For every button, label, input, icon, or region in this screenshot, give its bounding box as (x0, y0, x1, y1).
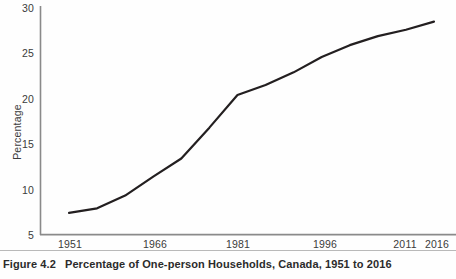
x-tick-label-1951: 1951 (48, 238, 92, 250)
caption-divider (0, 250, 456, 251)
y-tick-label-25: 25 (12, 47, 34, 59)
x-tick-label-1981: 1981 (216, 238, 260, 250)
line-chart-svg (0, 0, 456, 252)
y-tick-label-5: 5 (12, 229, 34, 241)
x-tick-label-2016: 2016 (415, 238, 456, 250)
y-tick-label-30: 30 (12, 2, 34, 14)
figure-container: 30 25 20 15 10 5 1951 1966 1981 1996 201… (0, 0, 456, 279)
x-tick-label-1966: 1966 (133, 238, 177, 250)
data-series-line (69, 22, 434, 213)
figure-caption-title: Percentage of One-person Households, Can… (65, 258, 392, 270)
figure-caption: Figure 4.2Percentage of One-person House… (3, 258, 453, 270)
x-tick-label-1996: 1996 (303, 238, 347, 250)
figure-number: Figure 4.2 (3, 258, 56, 270)
y-tick-label-10: 10 (12, 184, 34, 196)
y-axis-title: Percentage (11, 87, 23, 177)
chart-plot-area: 30 25 20 15 10 5 1951 1966 1981 1996 201… (0, 0, 456, 252)
